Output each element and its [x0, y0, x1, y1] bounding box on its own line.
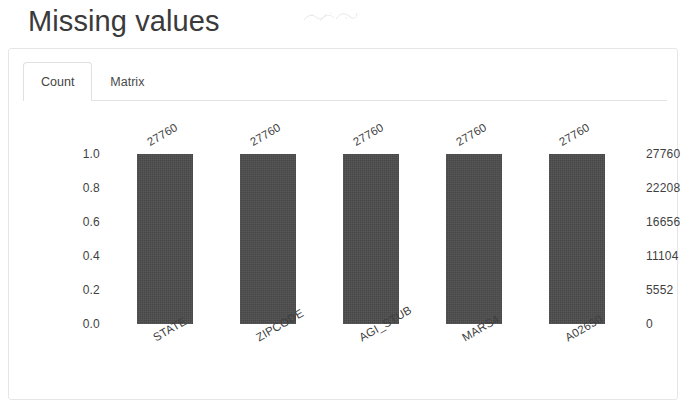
y-axis-right-tick-label: 11104 — [646, 249, 679, 263]
bar-zipcode[interactable]: 27760 — [240, 154, 296, 324]
bar-value-label: 27760 — [145, 121, 180, 148]
bar-value-label: 27760 — [454, 121, 489, 148]
y-axis-left-tick-label: 0.2 — [83, 283, 100, 297]
y-axis-left-tick-label: 0.6 — [83, 215, 100, 229]
bar-value-label: 27760 — [248, 121, 283, 148]
bar-a02650[interactable]: 27760 — [549, 154, 605, 324]
tab-count[interactable]: Count — [23, 62, 92, 100]
bar-state[interactable]: 27760 — [137, 154, 193, 324]
tab-matrix-label: Matrix — [110, 75, 144, 89]
bar-mars4[interactable]: 27760 — [446, 154, 502, 324]
plot-area: 27760STATE27760ZIPCODE27760AGI_STUB27760… — [113, 154, 629, 324]
y-axis-left-tick-label: 0.8 — [83, 181, 100, 195]
bar-value-label: 27760 — [557, 121, 592, 148]
y-axis-right-tick-label: 0 — [646, 317, 653, 331]
tab-count-label: Count — [41, 75, 74, 89]
y-axis-right-tick-label: 22208 — [646, 181, 680, 195]
bar-value-label: 27760 — [351, 121, 386, 148]
tab-bar: Count Matrix — [9, 49, 677, 101]
page-title: Missing values — [28, 2, 220, 40]
scan-artifact-smudge — [300, 6, 360, 26]
bar-agi_stub[interactable]: 27760 — [343, 154, 399, 324]
y-axis-left-tick-label: 1.0 — [83, 147, 100, 161]
tab-strip: Count Matrix — [23, 62, 667, 101]
y-axis-left-tick-label: 0.4 — [83, 249, 100, 263]
tab-matrix[interactable]: Matrix — [92, 62, 162, 100]
y-axis-left-tick-label: 0.0 — [83, 317, 100, 331]
missing-values-bar-chart: 27760STATE27760ZIPCODE27760AGI_STUB27760… — [9, 101, 679, 401]
y-axis-right-tick-label: 5552 — [646, 283, 674, 297]
missing-values-card: Count Matrix 27760STATE27760ZIPCODE27760… — [8, 48, 678, 400]
y-axis-right-tick-label: 27760 — [646, 147, 680, 161]
y-axis-right-tick-label: 16656 — [646, 215, 680, 229]
